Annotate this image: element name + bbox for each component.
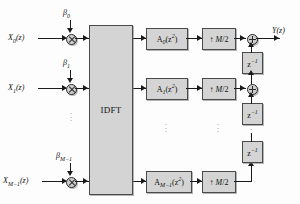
filter-block-row0[interactable]: A0(z2) [146, 28, 188, 50]
upsampler-block-row1[interactable]: ↑ M/2 [202, 78, 236, 100]
upsampler-column-ellipsis: ··· [213, 123, 223, 134]
delay-label-bottom: z−1 [247, 147, 258, 158]
adder1-bottom-arrow [248, 92, 254, 97]
output-label: Y(z) [272, 26, 285, 35]
delay-riser-wire-row2 [251, 166, 252, 182]
filter-label-row1: A1(z2) [157, 83, 178, 95]
gain-arrow-row1 [67, 78, 73, 83]
filter-block-row2[interactable]: AM−1(z2) [146, 171, 192, 193]
upsampler-block-row0[interactable]: ↑ M/2 [202, 28, 236, 50]
filter-block-row1[interactable]: A1(z2) [146, 78, 188, 100]
upsampler-label-row0: ↑ M/2 [210, 35, 229, 44]
gain-label-row2: βM−1 [56, 151, 72, 162]
upsampler-label-row2: ↑ M/2 [210, 178, 229, 187]
filter-column-ellipsis: ··· [161, 123, 171, 134]
input-label-row1: X1(z) [8, 83, 24, 94]
input-label-row2: XM−1(z) [3, 176, 28, 187]
adder-input-arrow-row0 [240, 35, 245, 41]
idft-block[interactable]: IDFT [89, 25, 133, 195]
idft-input-arrow-row1 [83, 85, 88, 91]
upsampler-block-row2[interactable]: ↑ M/2 [202, 171, 236, 193]
multiplier-row0[interactable] [66, 34, 77, 45]
multiplier-row1[interactable] [66, 84, 77, 95]
filter-label-row2: AM−1(z2) [154, 176, 184, 188]
idft-input-arrow-row0 [83, 35, 88, 41]
upsampler-label-row1: ↑ M/2 [210, 85, 229, 94]
idft-input-arrow-row2 [83, 178, 88, 184]
adder0-bottom-arrow [248, 42, 254, 47]
gain-arrow-row0 [67, 28, 73, 33]
filter-label-row0: A0(z2) [157, 33, 178, 45]
adder-input-arrow-row1 [240, 85, 245, 91]
gain-label-row1: β1 [63, 58, 70, 69]
block-diagram: X0(z) β0 A0(z2) ↑ M/2 Y(z) X1(z) β1 A1(z… [0, 0, 300, 204]
multiplier-row2[interactable] [66, 177, 77, 188]
delay-block-bottom[interactable]: z−1 [242, 141, 263, 163]
gain-arrow-row2 [67, 171, 73, 176]
upsampler-to-delay-wire-row2 [234, 181, 252, 182]
delay-top-input-arrow [248, 70, 254, 75]
idft-label: IDFT [100, 105, 121, 115]
gain-label-row0: β0 [63, 8, 70, 19]
input-label-row0: X0(z) [8, 33, 24, 44]
delay-label-top: z−1 [247, 58, 258, 69]
input-column-ellipsis: ··· [66, 112, 76, 123]
delay-label-middle: z−1 [247, 109, 258, 120]
output-arrow [274, 35, 279, 41]
delay-block-middle[interactable]: z−1 [242, 103, 263, 125]
delay-bottom-to-chain-wire [251, 133, 252, 142]
